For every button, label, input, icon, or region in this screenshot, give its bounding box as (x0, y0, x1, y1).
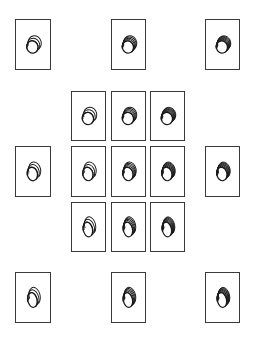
stimulus-card-grid-r2-c3 (150, 146, 185, 197)
stimulus-card-ref-bottom-center (111, 272, 146, 323)
swirl-ellipse-icon (206, 20, 239, 69)
stimulus-card-grid-r2-c1 (71, 146, 106, 197)
stimulus-card-grid-r1-c1 (71, 91, 106, 141)
swirl-ellipse-icon (151, 147, 184, 196)
swirl-ellipse-icon (151, 203, 184, 251)
stimulus-card-grid-r1-c3 (150, 91, 185, 141)
stimulus-card-ref-top-center (111, 19, 146, 70)
stimulus-card-grid-r3-c1 (71, 202, 106, 252)
stimulus-card-grid-r3-c2 (111, 202, 146, 252)
stimulus-card-ref-bottom-right (205, 272, 240, 323)
swirl-ellipse-icon (112, 20, 145, 69)
swirl-ellipse-icon (72, 147, 105, 196)
swirl-ellipse-icon (16, 20, 50, 69)
stimulus-card-grid-r1-c2 (111, 91, 146, 141)
swirl-ellipse-icon (112, 273, 145, 322)
swirl-ellipse-icon (112, 92, 145, 140)
swirl-ellipse-icon (16, 147, 50, 196)
stimulus-card-grid-r2-c2 (111, 146, 146, 197)
stimulus-card-ref-mid-right (205, 146, 240, 197)
swirl-ellipse-icon (16, 273, 50, 322)
swirl-ellipse-icon (72, 203, 105, 251)
swirl-ellipse-icon (206, 273, 239, 322)
stimulus-card-ref-mid-left (15, 146, 51, 197)
swirl-ellipse-icon (151, 92, 184, 140)
stimulus-card-ref-top-right (205, 19, 240, 70)
stimulus-card-ref-bottom-left (15, 272, 51, 323)
swirl-ellipse-icon (72, 92, 105, 140)
swirl-ellipse-icon (112, 147, 145, 196)
stimulus-card-ref-top-left (15, 19, 51, 70)
stimulus-card-grid-r3-c3 (150, 202, 185, 252)
swirl-ellipse-icon (112, 203, 145, 251)
swirl-ellipse-icon (206, 147, 239, 196)
